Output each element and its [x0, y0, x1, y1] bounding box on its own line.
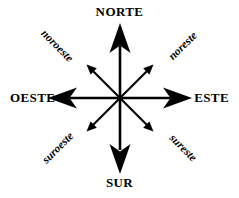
ray-suroeste	[87, 98, 121, 132]
label-sur: SUR	[0, 176, 239, 189]
ray-suroeste-shaft	[94, 98, 121, 125]
ray-noroeste-shaft	[94, 72, 121, 99]
ray-noroeste	[87, 65, 121, 99]
label-norte: NORTE	[0, 5, 239, 18]
label-este: ESTE	[194, 91, 229, 104]
axis-norte	[110, 23, 131, 98]
axis-este	[120, 88, 192, 109]
axis-oeste	[48, 88, 120, 109]
ray-noreste	[120, 65, 154, 99]
ray-sureste-shaft	[120, 98, 147, 125]
compass-center-point	[118, 96, 121, 99]
ray-noreste-shaft	[120, 72, 147, 99]
compass-rose-figure: NORTE SUR OESTE ESTE noroeste noreste su…	[0, 0, 239, 198]
axis-sur	[110, 98, 131, 174]
label-oeste: OESTE	[10, 91, 55, 104]
ray-sureste	[120, 98, 154, 132]
